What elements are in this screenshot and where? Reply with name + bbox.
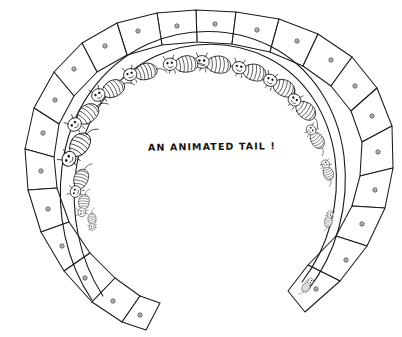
- punch-hole: [314, 287, 318, 291]
- punch-hole: [344, 258, 348, 262]
- punch-hole: [136, 29, 140, 33]
- punch-hole: [83, 276, 87, 280]
- punch-hole: [353, 84, 357, 88]
- horseshoe-panel-fan: [0, 0, 402, 337]
- punch-hole: [103, 44, 107, 48]
- punch-hole: [41, 131, 45, 135]
- punch-hole: [213, 22, 217, 26]
- punch-hole: [255, 28, 259, 32]
- punch-hole: [53, 98, 57, 102]
- punch-hole: [138, 313, 142, 317]
- punch-hole: [39, 169, 43, 173]
- punch-hole: [46, 207, 50, 211]
- creature-figure: [283, 89, 327, 128]
- punch-hole: [360, 222, 364, 226]
- punch-hole: [376, 150, 380, 154]
- caption-text: AN ANIMATED TAIL !: [148, 140, 270, 152]
- inner-arc-band: [60, 31, 345, 300]
- punch-hole: [329, 58, 333, 62]
- panel: [196, 10, 236, 44]
- drawing-canvas: AN ANIMATED TAIL !: [0, 0, 402, 337]
- punch-hole: [60, 244, 64, 248]
- creature-figure: [85, 208, 97, 231]
- punch-hole: [295, 39, 299, 43]
- punch-hole: [373, 188, 377, 192]
- creature-group: [57, 51, 339, 298]
- punch-hole: [370, 114, 374, 118]
- panel: [352, 168, 393, 208]
- punch-hole: [72, 67, 76, 71]
- punch-hole: [111, 299, 115, 303]
- creature-figure: [121, 55, 167, 86]
- punch-hole: [175, 24, 179, 28]
